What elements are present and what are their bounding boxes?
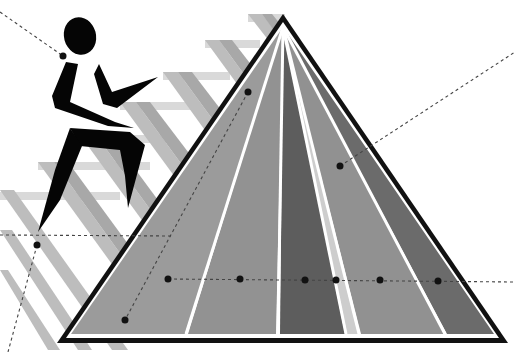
- figure-head: [60, 14, 101, 59]
- illustration: [0, 0, 515, 352]
